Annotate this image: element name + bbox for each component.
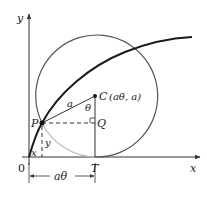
y-axis-label: y (16, 12, 24, 25)
right-angle-marker (90, 118, 95, 123)
y-length-label: y (44, 137, 51, 148)
point-p-label: P (30, 117, 39, 130)
x-length-label: x (31, 147, 37, 158)
point-c-label: C (99, 90, 108, 103)
point-c-coords: (aθ, a) (109, 91, 141, 102)
distance-label: aθ (54, 170, 68, 183)
cycloid-diagram: y x 0 P C (aθ, a) Q T a θ x y aθ (0, 0, 207, 199)
angle-theta-label: θ (85, 102, 91, 113)
point-t-label: T (91, 162, 100, 175)
radius-label: a (67, 98, 73, 109)
point-c (93, 94, 97, 98)
point-p (40, 121, 45, 126)
diagram-canvas: y x 0 P C (aθ, a) Q T a θ x y aθ (0, 0, 207, 199)
origin-label: 0 (18, 162, 25, 175)
point-q-label: Q (97, 117, 106, 130)
x-axis-label: x (190, 162, 197, 175)
